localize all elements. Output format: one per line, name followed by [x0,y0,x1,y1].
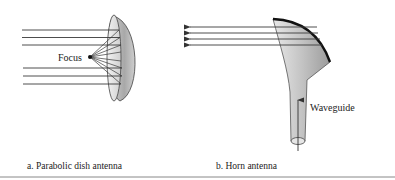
focus-label: Focus [58,52,82,63]
horn-antenna-diagram: Waveguide [190,19,355,151]
horn-body [273,19,330,141]
focus-point [88,55,92,59]
parabolic-dish-diagram: Focus [22,15,135,101]
dish-rim [107,15,121,101]
caption-a: a. Parabolic dish antenna [27,161,123,171]
antenna-figure: Focus Waveguide a. Parabolic dish antenn… [0,0,395,180]
waveguide-label: Waveguide [310,102,355,113]
caption-b: b. Horn antenna [216,161,278,171]
